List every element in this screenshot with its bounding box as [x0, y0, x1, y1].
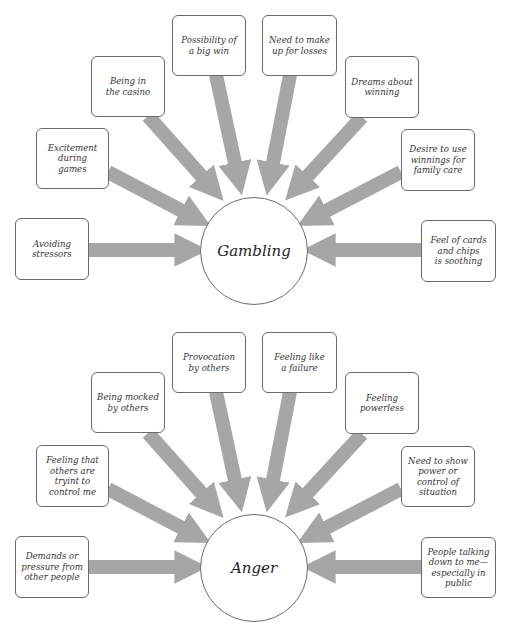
trigger-box-being-mocked: Being mocked by others	[91, 372, 165, 433]
trigger-box-excitement-during-games: Excitement during games	[36, 128, 109, 189]
anger-trigger-diagram: Demands or pressure from other people Fe…	[0, 317, 512, 617]
arrow-top-left	[216, 75, 236, 168]
trigger-box-possibility-big-win: Possibility of a big win	[172, 15, 246, 76]
trigger-box-feeling-failure: Feeling like a failure	[262, 332, 337, 393]
trigger-box-show-power: Need to show power or control of situati…	[401, 446, 475, 507]
trigger-box-being-in-casino: Being in the casino	[91, 56, 165, 117]
arrow-top-right	[272, 75, 290, 168]
trigger-box-feeling-powerless: Feeling powerless	[345, 372, 419, 434]
arrow-upper-right-low	[322, 489, 401, 530]
gambling-trigger-diagram: Avoiding stressors Excitement during gam…	[0, 0, 512, 300]
trigger-box-make-up-losses: Need to make up for losses	[262, 15, 337, 76]
trigger-box-demands-pressure: Demands or pressure from other people	[15, 536, 89, 598]
trigger-box-others-control-me: Feeling that others are tryint to contro…	[36, 445, 109, 507]
center-node-anger: Anger	[200, 514, 308, 622]
trigger-box-feel-of-cards: Feel of cards and chips is soothing	[421, 220, 496, 282]
arrow-top-right	[272, 392, 290, 485]
trigger-box-talking-down: People talking down to me— especially in…	[421, 537, 496, 598]
arrow-upper-right-high	[304, 117, 362, 180]
trigger-box-desire-family-care: Desire to use winnings for family care	[401, 129, 475, 191]
arrow-top-left	[216, 392, 236, 485]
trigger-box-avoiding-stressors: Avoiding stressors	[15, 218, 89, 280]
arrow-upper-left-low	[108, 172, 186, 213]
arrow-upper-left-low	[108, 489, 186, 530]
arrow-upper-left-high	[148, 116, 205, 180]
center-node-gambling: Gambling	[200, 197, 308, 305]
arrow-upper-right-low	[322, 172, 401, 213]
arrow-upper-left-high	[148, 433, 205, 497]
trigger-box-dreams-about-winning: Dreams about winning	[345, 56, 419, 118]
arrow-upper-right-high	[304, 434, 362, 497]
trigger-box-provocation: Provocation by others	[172, 332, 246, 393]
